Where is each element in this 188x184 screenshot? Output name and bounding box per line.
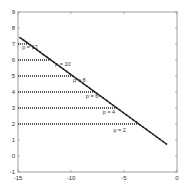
diagonal-marker <box>156 136 158 138</box>
p-label: p = 8 <box>73 77 85 83</box>
diagonal-marker <box>102 97 104 99</box>
diagonal-marker <box>119 109 121 111</box>
x-tick-label: -10 <box>67 175 76 181</box>
x-tick-label: -15 <box>14 175 23 181</box>
diagonal-marker <box>149 131 151 133</box>
plot-frame <box>18 12 177 172</box>
diagonal-marker <box>142 126 144 128</box>
annotations: p = 12p = 10p = 8p = 6p = 4p = 2 <box>22 44 126 133</box>
p-label: p = 6 <box>86 93 98 99</box>
diagonal-marker <box>19 37 21 39</box>
diagonal-marker <box>69 73 71 75</box>
x-tick-label: -5 <box>121 175 127 181</box>
diagonal-marker <box>139 124 141 126</box>
y-tick-label: 1 <box>12 137 16 143</box>
diagonal-marker <box>86 85 88 87</box>
diagonal-marker <box>46 56 48 58</box>
diagonal-marker <box>166 143 168 145</box>
diagonal-marker <box>62 68 64 70</box>
diagonal-marker <box>132 119 134 121</box>
diagonal-marker <box>146 129 148 131</box>
diagonal-marker <box>112 104 114 106</box>
diagonal-marker <box>23 39 25 41</box>
diagonal-marker <box>42 54 44 56</box>
diagonal-marker <box>109 102 111 104</box>
p-label: p = 10 <box>55 61 70 67</box>
diagonal-marker <box>152 133 154 135</box>
y-tick-label: 9 <box>12 9 16 15</box>
diagonal-marker <box>126 114 128 116</box>
diagonal-marker <box>129 117 131 119</box>
p-label: p = 4 <box>103 109 115 115</box>
y-tick-label: 6 <box>12 57 16 63</box>
y-tick-label: 7 <box>12 41 16 47</box>
y-tick-label: 2 <box>12 121 16 127</box>
diagonal-marker <box>136 121 138 123</box>
p-label: p = 12 <box>22 44 37 50</box>
y-tick-label: 3 <box>12 105 16 111</box>
series <box>18 37 167 145</box>
diagonal-marker <box>52 61 54 63</box>
y-tick-label: 8 <box>12 25 16 31</box>
y-tick-label: 4 <box>12 89 16 95</box>
p-label: p = 2 <box>113 127 125 133</box>
diagonal-marker <box>99 95 101 97</box>
diagonal-marker <box>162 141 164 143</box>
diagonal-marker <box>66 71 68 73</box>
chart: -15-10-50-10123456789 p = 12p = 10p = 8p… <box>0 0 188 184</box>
y-tick-label: -1 <box>10 169 16 175</box>
x-tick-label: 0 <box>175 175 179 181</box>
diagonal-marker <box>39 51 41 53</box>
diagonal-marker <box>159 138 161 140</box>
diagonal-marker <box>89 87 91 89</box>
y-tick-label: 0 <box>12 153 16 159</box>
diagonal-marker <box>122 112 124 114</box>
diagonal-marker <box>106 100 108 102</box>
y-tick-label: 5 <box>12 73 16 79</box>
